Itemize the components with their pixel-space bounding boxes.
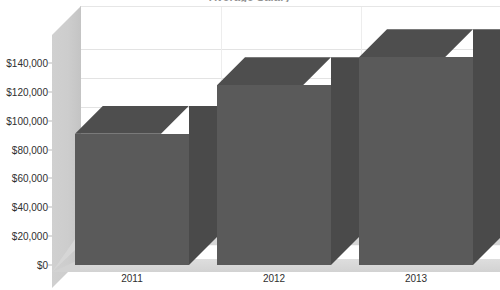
bar-side-face: [331, 57, 359, 265]
y-axis-tick-mark: [48, 91, 52, 92]
bar-front-face: [217, 85, 331, 265]
y-axis-tick-label: $0: [37, 260, 48, 271]
x-axis-tick-label: 2012: [263, 273, 285, 284]
y-axis-tick-mark: [48, 63, 52, 64]
y-axis-tick-label: $60,000: [12, 173, 48, 184]
bar-side-face: [189, 106, 217, 265]
y-axis-tick-mark: [48, 120, 52, 121]
bar-front-face: [359, 57, 473, 265]
bar-top-face: [359, 29, 473, 57]
chart-container: Average Salary $140,000$120,000$100,000$…: [0, 0, 500, 290]
bar-top-face: [217, 57, 331, 85]
y-axis-tick-label: $20,000: [12, 231, 48, 242]
y-axis-tick-label: $140,000: [6, 58, 48, 69]
bar-column[interactable]: [217, 57, 331, 265]
bar-side-face: [473, 29, 500, 265]
y-axis-tick-mark: [48, 265, 52, 266]
chart-plot-area: [52, 6, 500, 272]
x-axis-tick-label: 2011: [121, 273, 143, 284]
chart-title: Average Salary: [0, 0, 500, 2]
bar-top-face: [75, 106, 189, 134]
bar-column[interactable]: [359, 29, 473, 265]
y-axis: $140,000$120,000$100,000$80,000$60,000$4…: [0, 0, 52, 290]
y-axis-tick-mark: [48, 178, 52, 179]
y-axis-tick-label: $100,000: [6, 115, 48, 126]
y-axis-tick-label: $40,000: [12, 202, 48, 213]
y-axis-tick-label: $80,000: [12, 144, 48, 155]
bar-front-face: [75, 134, 189, 265]
y-axis-tick-mark: [48, 149, 52, 150]
bar-column[interactable]: [75, 106, 189, 265]
x-axis-tick-label: 2013: [405, 273, 427, 284]
y-axis-tick-mark: [48, 207, 52, 208]
y-axis-tick-mark: [48, 236, 52, 237]
y-axis-tick-label: $120,000: [6, 86, 48, 97]
x-axis: 201120122013: [0, 271, 500, 290]
